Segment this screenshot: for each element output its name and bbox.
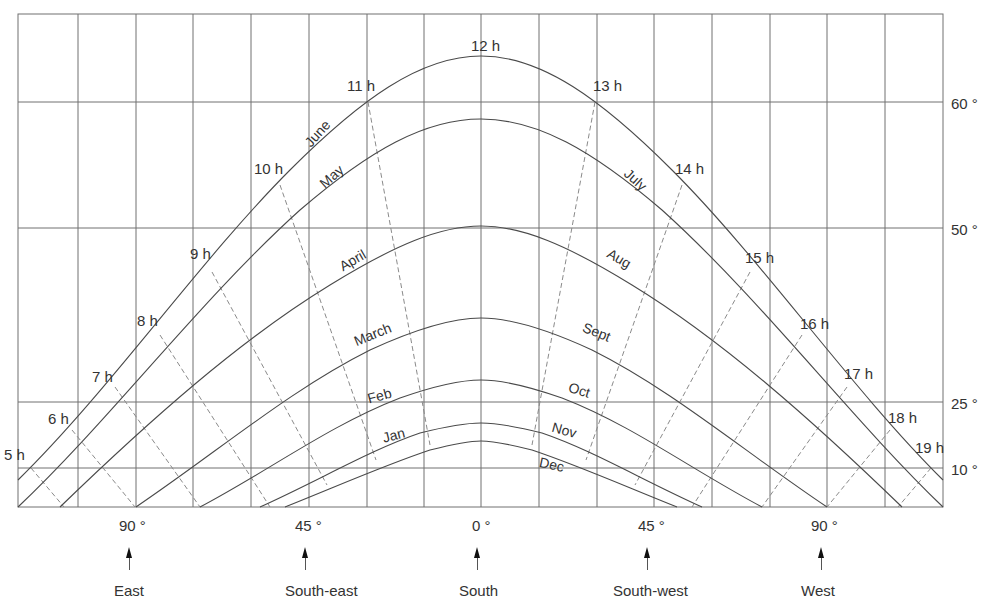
direction-south-east: South-east bbox=[285, 583, 358, 598]
hour-label-8h: 8 h bbox=[137, 313, 158, 328]
hour-line-9h bbox=[212, 272, 327, 485]
hour-label-13h: 13 h bbox=[593, 78, 622, 93]
direction-west: West bbox=[801, 583, 835, 598]
hour-line-16h bbox=[692, 335, 802, 507]
y-label-10: 10 ° bbox=[951, 462, 978, 477]
x-label-southeast-45: 45 ° bbox=[295, 518, 322, 533]
hour-line-5h bbox=[31, 468, 64, 507]
hour-label-11h: 11 h bbox=[347, 78, 375, 93]
hour-line-8h bbox=[160, 335, 270, 507]
hour-label-18h: 18 h bbox=[888, 410, 917, 425]
sun-path-chart bbox=[0, 0, 992, 616]
y-label-60: 60 ° bbox=[951, 96, 978, 111]
hour-label-10h: 10 h bbox=[254, 161, 283, 176]
hour-label-7h: 7 h bbox=[92, 369, 113, 384]
grid bbox=[18, 14, 943, 507]
x-label-southwest-45: 45 ° bbox=[638, 518, 665, 533]
hour-line-19h bbox=[898, 468, 931, 507]
direction-east: East bbox=[114, 583, 144, 598]
direction-south-west: South-west bbox=[613, 583, 688, 598]
hour-label-9h: 9 h bbox=[190, 246, 211, 261]
hour-label-19h: 19 h bbox=[915, 440, 944, 455]
y-label-25: 25 ° bbox=[951, 396, 978, 411]
hour-label-12h: 12 h bbox=[471, 38, 500, 53]
hour-line-7h bbox=[115, 387, 200, 507]
x-label-south-0: 0 ° bbox=[472, 518, 491, 533]
hour-label-14h: 14 h bbox=[675, 161, 704, 176]
y-label-50: 50 ° bbox=[951, 222, 978, 237]
hour-line-15h bbox=[635, 272, 750, 485]
hour-label-15h: 15 h bbox=[745, 250, 774, 265]
hour-label-6h: 6 h bbox=[48, 411, 69, 426]
direction-south: South bbox=[459, 583, 498, 598]
x-label-east-90: 90 ° bbox=[119, 518, 146, 533]
hour-line-10h bbox=[280, 185, 376, 460]
x-label-west-90: 90 ° bbox=[811, 518, 838, 533]
hour-line-14h bbox=[586, 185, 682, 460]
hour-label-5h: 5 h bbox=[4, 447, 25, 462]
hour-label-16h: 16 h bbox=[800, 316, 829, 331]
hour-label-17h: 17 h bbox=[844, 366, 873, 381]
hour-line-17h bbox=[762, 387, 847, 507]
